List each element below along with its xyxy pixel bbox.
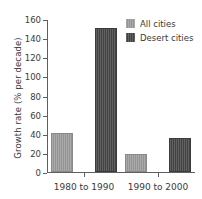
- y-tick-label: 0: [36, 168, 41, 178]
- y-tick-mark: [43, 135, 47, 136]
- y-tick-label: 160: [25, 15, 41, 25]
- y-tick-mark: [43, 58, 47, 59]
- y-tick-mark: [43, 20, 47, 21]
- x-tick-label: 1980 to 1990: [54, 182, 115, 192]
- y-tick-label: 140: [25, 34, 41, 44]
- y-tick-mark: [43, 116, 47, 117]
- legend-swatch-icon-desert-cities: [126, 33, 135, 42]
- y-tick-mark: [43, 154, 47, 155]
- y-tick-mark: [43, 39, 47, 40]
- legend-label-all-cities: All cities: [140, 19, 176, 29]
- bar-all-cities-1: [125, 154, 147, 172]
- legend-item-desert-cities: Desert cities: [126, 32, 193, 43]
- x-tick-label: 1990 to 2000: [128, 182, 189, 192]
- y-axis-line: [47, 20, 48, 173]
- x-axis-line: [47, 172, 195, 173]
- bar-desert-cities-1: [169, 138, 191, 172]
- chart-legend: All cities Desert cities: [126, 18, 193, 46]
- x-tick-mark: [158, 173, 159, 177]
- legend-label-desert-cities: Desert cities: [140, 33, 193, 43]
- bar-desert-cities-0: [95, 28, 117, 172]
- bar-all-cities-0: [51, 133, 73, 172]
- legend-item-all-cities: All cities: [126, 18, 193, 29]
- y-tick-mark: [43, 77, 47, 78]
- y-tick-mark: [43, 173, 47, 174]
- y-tick-label: 60: [30, 111, 41, 121]
- y-tick-mark: [43, 97, 47, 98]
- y-tick-label: 80: [30, 92, 41, 102]
- y-tick-label: 20: [30, 149, 41, 159]
- y-tick-label: 100: [25, 72, 41, 82]
- y-tick-label: 120: [25, 53, 41, 63]
- bar-chart: Growth rate (% per decade) 0204060801001…: [0, 0, 202, 199]
- legend-swatch-icon-all-cities: [126, 19, 135, 28]
- y-tick-label: 40: [30, 130, 41, 140]
- x-tick-mark: [84, 173, 85, 177]
